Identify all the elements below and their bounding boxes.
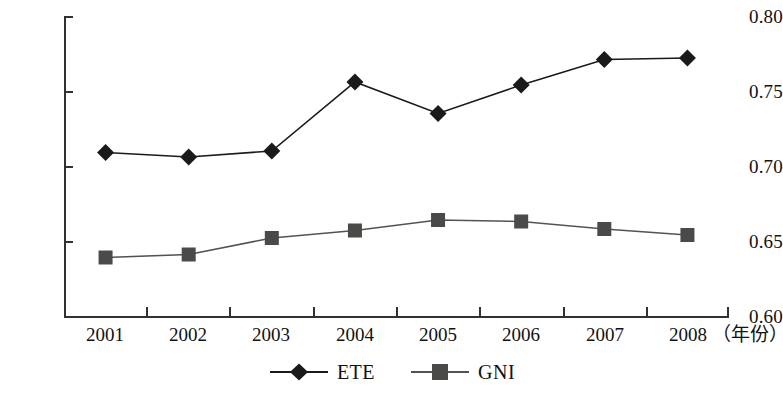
x-axis-tick — [396, 307, 398, 317]
y-axis-tick — [64, 16, 73, 18]
data-point-ete — [180, 149, 197, 166]
x-axis-tick — [313, 307, 315, 317]
x-axis-tick — [146, 307, 148, 317]
y-axis-tick — [64, 316, 73, 318]
y-axis-label-070: 0.70 — [727, 157, 783, 176]
data-point-ete — [596, 51, 613, 68]
square-marker-icon — [409, 362, 471, 382]
x-axis-tick — [563, 307, 565, 317]
data-point-ete — [679, 50, 696, 67]
data-point-ete — [513, 77, 530, 94]
y-axis-tick — [64, 166, 73, 168]
x-axis-label-2001: 2001 — [63, 324, 147, 346]
x-axis-label-2004: 2004 — [313, 324, 397, 346]
series-markers-gni — [99, 213, 695, 265]
data-point-gni — [431, 213, 445, 227]
y-axis-label-075: 0.75 — [727, 82, 783, 101]
data-point-gni — [348, 224, 362, 238]
series-line-gni — [106, 220, 688, 258]
series-markers-ete — [97, 50, 696, 166]
x-axis-unit-label: （年份） — [712, 324, 783, 346]
y-axis-tick — [64, 91, 73, 93]
x-axis-label-2003: 2003 — [229, 324, 313, 346]
chart-legend: ETE GNI — [0, 362, 783, 382]
x-axis-label-2002: 2002 — [146, 324, 230, 346]
legend-label-gni: GNI — [478, 362, 515, 382]
legend-label-ete: ETE — [337, 362, 375, 382]
x-axis-label-2006: 2006 — [479, 324, 563, 346]
legend-item-ete: ETE — [268, 362, 375, 382]
data-point-ete — [263, 143, 280, 160]
x-axis-tick — [229, 307, 231, 317]
x-axis-tick — [727, 307, 729, 317]
data-point-gni — [514, 215, 528, 229]
legend-item-gni: GNI — [409, 362, 515, 382]
data-point-gni — [99, 251, 113, 265]
series-line-ete — [106, 58, 688, 157]
data-point-ete — [97, 144, 114, 161]
y-axis-label-080: 0.80 — [727, 7, 783, 26]
data-point-gni — [265, 231, 279, 245]
data-point-gni — [680, 228, 694, 242]
diamond-marker-icon — [268, 362, 330, 382]
x-axis-tick — [646, 307, 648, 317]
data-point-ete — [430, 105, 447, 122]
y-axis-label-065: 0.65 — [727, 232, 783, 251]
x-axis-label-2007: 2007 — [563, 324, 647, 346]
y-axis-tick — [64, 241, 73, 243]
x-axis-tick — [479, 307, 481, 317]
data-point-gni — [597, 222, 611, 236]
x-axis-label-2005: 2005 — [396, 324, 480, 346]
data-point-ete — [346, 74, 363, 91]
line-chart: 0.80 0.75 0.70 0.65 0.60 2001 2002 2003 … — [0, 0, 783, 395]
data-point-gni — [182, 248, 196, 262]
